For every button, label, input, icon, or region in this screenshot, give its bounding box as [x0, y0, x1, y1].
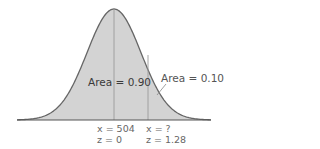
- mean-x-label: x = 504: [97, 124, 135, 134]
- area-main-label: Area = 0.90: [88, 77, 151, 88]
- cutoff-z-label: z = 1.28: [146, 135, 186, 145]
- mean-z-label: z = 0: [97, 135, 122, 145]
- area-tail-label: Area = 0.10: [161, 73, 224, 84]
- cutoff-x-label: x = ?: [146, 124, 171, 134]
- tail-pointer: [157, 84, 166, 95]
